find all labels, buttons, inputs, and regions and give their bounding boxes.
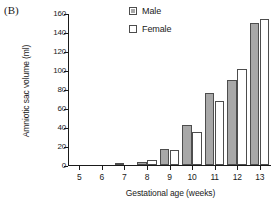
bar-male-week-7 [115,163,125,165]
x-tick-label: 9 [159,172,181,182]
y-axis-line [68,14,69,166]
bar-female-week-13 [260,19,270,165]
x-tick-mark [147,166,148,170]
x-tick-mark [79,166,80,170]
x-tick-label: 6 [91,172,113,182]
bar-female-week-11 [215,101,225,165]
y-tick-label: 100 [53,66,66,76]
x-tick-mark [237,166,238,170]
x-tick-mark [102,166,103,170]
x-tick-label: 13 [249,172,271,182]
x-tick-label: 7 [113,172,135,182]
x-tick-mark [124,166,125,170]
bar-female-week-10 [192,132,202,165]
x-tick-mark [215,166,216,170]
bar-male-week-11 [205,93,215,165]
bar-male-week-9 [160,149,170,165]
x-axis-title: Gestational age (weeks) [68,188,273,198]
bar-female-week-8 [147,160,157,165]
x-tick-mark [170,166,171,170]
plot-area: 020406080100120140160 5678910111213 [68,14,271,166]
x-tick-label: 11 [204,172,226,182]
y-tick-label: 0 [62,161,66,171]
x-tick-label: 10 [181,172,203,182]
bar-male-week-13 [250,23,260,166]
figure-panel-b: (B) Amniotic sac volume (ml) Gestational… [0,0,278,208]
x-tick-label: 12 [226,172,248,182]
x-tick-mark [260,166,261,170]
x-tick-label: 8 [136,172,158,182]
y-tick-label: 80 [58,85,67,95]
y-tick-label: 20 [58,142,67,152]
x-tick-mark [192,166,193,170]
bar-female-week-9 [170,150,180,165]
bar-male-week-12 [227,80,237,165]
bar-female-week-12 [237,69,247,165]
y-axis-title: Amniotic sac volume (ml) [21,21,31,161]
bar-male-week-8 [137,162,147,165]
panel-label: (B) [4,4,19,16]
y-tick-label: 40 [58,123,67,133]
y-tick-label: 140 [53,28,66,38]
y-tick-label: 120 [53,47,66,57]
bar-male-week-10 [182,125,192,165]
x-tick-label: 5 [68,172,90,182]
y-tick-label: 60 [58,104,67,114]
y-tick-label: 160 [53,9,66,19]
